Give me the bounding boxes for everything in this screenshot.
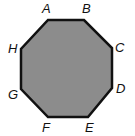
vertex-label-d: D (116, 81, 125, 96)
vertex-label-a: A (41, 1, 51, 16)
octagon-svg: A B C D E F G H (0, 0, 135, 136)
octagon-diagram: A B C D E F G H (0, 0, 135, 136)
vertex-label-f: F (42, 120, 51, 135)
vertex-label-b: B (82, 1, 91, 16)
vertex-label-e: E (85, 120, 94, 135)
vertex-label-h: H (8, 41, 18, 56)
octagon-shape (21, 20, 112, 117)
vertex-label-c: C (115, 40, 125, 55)
vertex-label-g: G (8, 87, 18, 102)
